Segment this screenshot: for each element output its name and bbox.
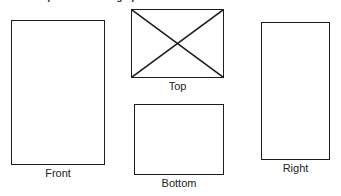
view-front-rectangle [11, 20, 105, 165]
view-front-label: Front [45, 167, 71, 180]
view-top: Top [131, 9, 224, 78]
view-right-rectangle [261, 22, 330, 160]
view-front: Front [11, 20, 105, 165]
page-title: Complete the Orthographic Sketch: Part A… [26, 0, 256, 2]
view-bottom: Bottom [134, 104, 224, 175]
view-bottom-rectangle [134, 104, 224, 175]
view-top-label: Top [169, 80, 187, 93]
view-right-label: Right [283, 162, 309, 175]
view-bottom-label: Bottom [162, 177, 197, 190]
view-right: Right [261, 22, 330, 160]
view-top-diagonals-icon [131, 9, 224, 78]
orthographic-drawing-canvas: Complete the Orthographic Sketch: Part A… [0, 0, 341, 196]
